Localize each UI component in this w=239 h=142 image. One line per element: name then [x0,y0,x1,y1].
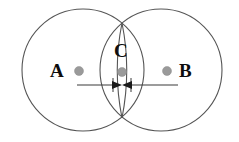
center-dot-b [163,67,172,76]
circle-overlap-diagram: A B C [0,0,239,142]
point-label-c: C [114,41,128,60]
center-dot-a [75,67,84,76]
point-label-a: A [50,61,64,80]
point-label-b: B [179,61,192,80]
center-dot-c [118,68,127,77]
diagram-canvas [0,0,239,142]
